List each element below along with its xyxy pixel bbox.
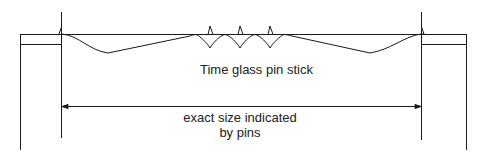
pin-marker-icon-3 [268, 26, 273, 35]
stick-sag-curve [62, 34, 196, 53]
arrowhead-left-icon [62, 105, 68, 109]
dimension-label: exact size indicated by pins [180, 110, 300, 140]
dimension-arrow [62, 105, 421, 109]
dimension-label-line2: by pins [180, 125, 300, 140]
scallops [196, 35, 284, 49]
pin-marker-icon-2 [238, 26, 243, 35]
left-block [21, 35, 62, 151]
dimension-label-line1: exact size indicated [180, 110, 300, 125]
diagram-caption: Time glass pin stick [200, 62, 360, 77]
arrowhead-right-icon [415, 105, 421, 109]
left-pin-head-icon [59, 27, 62, 34]
pin-marker-icon-1 [208, 26, 213, 35]
right-block [422, 35, 467, 151]
stick-sag-curve-right [284, 34, 421, 53]
